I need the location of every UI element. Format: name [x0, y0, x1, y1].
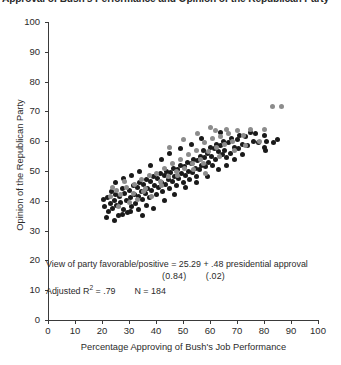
standard-error-intercept: (0.84) — [162, 271, 186, 281]
scatter-point — [167, 151, 172, 156]
scatter-point — [224, 163, 229, 168]
y-tick-mark — [45, 231, 48, 232]
scatter-point — [162, 166, 167, 171]
x-tick-label: 100 — [304, 326, 332, 336]
scatter-point — [128, 209, 133, 214]
scatter-point — [189, 142, 194, 147]
scatter-point — [144, 203, 149, 208]
scatter-point — [251, 139, 256, 144]
scatter-point — [162, 198, 167, 203]
scatter-point — [104, 215, 109, 220]
regression-annotation: View of party favorable/positive = 25.29… — [46, 258, 341, 297]
scatter-point — [182, 166, 187, 171]
x-tick-mark — [264, 321, 265, 324]
scatter-point — [186, 152, 191, 157]
scatter-point — [264, 139, 269, 144]
scatter-point — [116, 204, 121, 209]
x-tick-mark — [156, 321, 157, 324]
scatter-point — [135, 197, 140, 202]
x-tick-mark — [129, 321, 130, 324]
scatter-point — [140, 197, 145, 202]
y-tick-label: 100 — [6, 17, 40, 27]
regression-equation: View of party favorable/positive = 25.29… — [46, 258, 341, 270]
x-tick-label: 90 — [277, 326, 305, 336]
chart-title: Approval of Bush's Performance and Opini… — [2, 0, 341, 4]
y-tick-mark — [45, 141, 48, 142]
y-tick-label: 90 — [6, 47, 40, 57]
sample-size: N = 184 — [134, 286, 165, 296]
x-tick-mark — [102, 321, 103, 324]
scatter-point — [131, 191, 136, 196]
scatter-point — [262, 127, 267, 132]
scatter-point — [214, 145, 219, 150]
scatter-point — [235, 128, 240, 133]
scatter-point — [132, 182, 137, 187]
scatter-point — [232, 157, 237, 162]
model-statistics: Adjusted R2 = .79 N = 184 — [46, 285, 341, 297]
y-tick-mark — [45, 171, 48, 172]
scatter-point — [159, 157, 164, 162]
x-tick-mark — [237, 321, 238, 324]
scatter-point — [194, 148, 199, 153]
scatter-point — [127, 200, 132, 205]
x-tick-mark — [291, 321, 292, 324]
x-tick-label: 20 — [88, 326, 116, 336]
scatter-point — [178, 146, 183, 151]
y-tick-label: 10 — [6, 285, 40, 295]
scatter-point — [170, 161, 175, 166]
scatter-point — [112, 218, 117, 223]
scatter-point — [208, 125, 213, 130]
x-tick-mark — [75, 321, 76, 324]
x-tick-label: 80 — [250, 326, 278, 336]
scatter-point — [263, 148, 268, 153]
scatter-point — [148, 163, 153, 168]
scatter-point — [167, 145, 172, 150]
y-axis-label: Opinion of the Republican Party — [15, 70, 25, 260]
adjusted-r2-label: Adjusted R — [46, 286, 89, 296]
scatter-plot-figure: Approval of Bush's Performance and Opini… — [0, 0, 341, 365]
scatter-point — [147, 173, 152, 178]
scatter-point — [248, 127, 253, 132]
adjusted-r2-value: = .79 — [93, 286, 115, 296]
scatter-point — [243, 143, 248, 148]
x-tick-label: 70 — [223, 326, 251, 336]
y-tick-mark — [45, 111, 48, 112]
scatter-point — [224, 127, 229, 132]
scatter-point — [181, 137, 186, 142]
y-tick-mark — [45, 22, 48, 23]
scatter-point — [232, 148, 237, 153]
x-tick-label: 50 — [169, 326, 197, 336]
scatter-point — [216, 167, 221, 172]
x-tick-mark — [48, 321, 49, 324]
x-axis-label: Percentage Approving of Bush's Job Perfo… — [48, 342, 319, 352]
y-tick-label: 0 — [6, 315, 40, 325]
y-tick-mark — [45, 201, 48, 202]
standard-errors: (0.84) (.02) — [46, 270, 341, 282]
scatter-point — [240, 152, 245, 157]
x-tick-mark — [318, 321, 319, 324]
y-tick-mark — [45, 82, 48, 83]
scatter-point — [154, 192, 159, 197]
scatter-point — [120, 212, 125, 217]
scatter-point — [241, 133, 246, 138]
scatter-point — [224, 155, 229, 160]
x-tick-label: 40 — [142, 326, 170, 336]
x-tick-label: 60 — [196, 326, 224, 336]
standard-error-slope: (.02) — [206, 271, 225, 281]
scatter-point — [178, 157, 183, 162]
scatter-point — [151, 206, 156, 211]
x-tick-mark — [183, 321, 184, 324]
scatter-point — [108, 194, 113, 199]
y-tick-mark — [45, 52, 48, 53]
scatter-point — [210, 136, 215, 141]
scatter-point — [137, 169, 142, 174]
scatter-point — [217, 154, 222, 159]
x-tick-mark — [210, 321, 211, 324]
scatter-point — [262, 133, 267, 138]
scatter-point — [190, 161, 195, 166]
scatter-point — [210, 163, 215, 168]
scatter-point — [235, 137, 240, 142]
x-tick-label: 10 — [61, 326, 89, 336]
x-tick-label: 30 — [115, 326, 143, 336]
scatter-point — [201, 161, 206, 166]
